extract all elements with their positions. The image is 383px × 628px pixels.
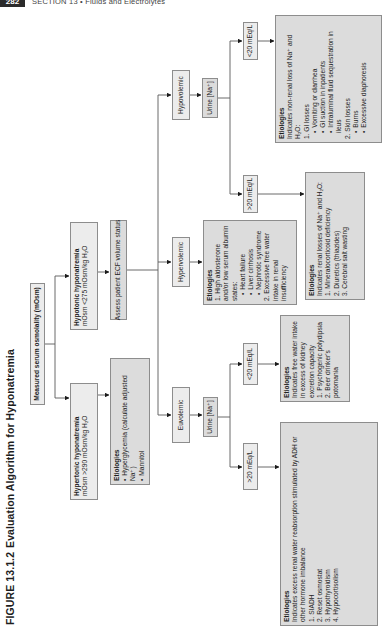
node-hypovolemic-urine-na: Urine [Na⁺] [202,78,218,118]
node-euvolemic-urine-high: >20 mEq/L [243,443,258,490]
etiology-item: 1. Psychogenic polydipsia [316,319,324,398]
etiology-item: 1. SIADH [308,426,316,622]
etiology-subitem: Excessive diaphoresis [360,19,368,139]
euvolemic-high-etiologies-box: Etiologies Indicates excess renal water … [280,422,378,626]
hypotonic-criterion: mOsm <275 mOsm/kg H₂O [81,246,88,326]
etiology-subitem: Liver cirrhosis [247,224,255,301]
etiology-subitem: Intraluminal fluid sequestration in ileu… [327,19,343,139]
hypervolemic-etiologies-box: Etiologies 1. High aldosterone and/or lo… [203,220,297,305]
node-hypovolemic: Hypovolemic [172,70,190,120]
node-assess-ecf-volume: Assess patient ECF volume status [110,220,127,320]
node-hypervolemic: Hypervolemic [172,237,190,287]
etiology-item: 3. Cerebral salt wasting [341,176,349,296]
node-hypovolemic-urine-low: <20 mEq/L [243,22,258,60]
etiology-subitem: Burns [352,19,360,139]
etiologies-heading: Etiologies [283,426,291,622]
etiology-subitem: Heart failure [239,224,247,301]
etiology-description: Indicates non-renal loss of Na⁺ and H₂O: [286,19,302,139]
hypovolemic-low-etiologies-box: Etiologies Indicates non-renal loss of N… [275,15,382,143]
hypertonic-criterion: mOsm >290 mOsm/kg H₂O [81,416,88,496]
etiology-item: 3. Hypothyroidism [324,426,332,622]
etiology-item: 2. Beer drinker's potomania [324,319,340,398]
node-hypotonic-hyponatremia: Hypotonic hyponatremia mOsm <275 mOsm/kg… [70,222,98,330]
node-euvolemic-urine-na: Urine [Na⁺] [203,397,218,437]
etiology-item: 1. Mineralocorticoid deficiency [324,176,332,296]
hypertonic-title: Hypertonic hyponatremia [73,387,81,496]
etiologies-heading: Etiologies [113,362,121,481]
etiologies-heading: Etiologies [283,319,291,398]
etiologies-heading: Etiologies [308,176,316,296]
node-hypertonic-hyponatremia: Hypertonic hyponatremia mOsm >290 mOsm/k… [70,383,98,500]
etiology-description: Indicates renal losses of Na⁺ and H₂O: [316,176,324,296]
hypotonic-title: Hypotonic hyponatremia [73,226,81,326]
etiology-item: 2. Diuretics (thiazides) [333,176,341,296]
node-euvolemic: Euvolemic [172,387,190,443]
hypertonic-etiologies-box: Etiologies Hyperglycemia (calculate adju… [110,358,150,485]
etiology-item: Mannitol [138,362,146,481]
etiology-subitem: GI suction in inpatients [319,19,327,139]
etiology-subitem: Vomiting or diarrhea [311,19,319,139]
etiologies-heading: Etiologies [278,19,286,139]
etiology-subitem: Nephrotic syndrome [255,224,263,301]
etiology-item: 1. High aldosterone and/or low serum alb… [214,224,239,301]
etiology-item: 2. Reset osmostat [316,426,324,622]
euvolemic-low-etiologies-box: Etiologies Indicates free water intake i… [280,315,350,402]
node-hypovolemic-urine-high: >20 mEq/L [243,175,258,213]
node-euvolemic-urine-low: <20 mEq/L [243,343,258,385]
etiology-description: Indicates free water intake in excess of… [291,319,316,398]
figure-hyponatremia-algorithm: FIGURE 13.1.2Evaluation Algorithm for Hy… [0,0,383,628]
etiology-description: Indicates excess renal water reabsorptio… [291,426,307,622]
etiology-group: 2. Skin losses [344,19,352,139]
etiologies-heading: Etiologies [206,224,214,301]
etiology-item: Hyperglycemia (calculate adjusted Na⁺) [121,362,137,481]
root-node-serum-osmolality: Measured serum osmolality (mOsm) [30,283,45,405]
etiology-item: 4. Hypocortisolism [332,426,340,622]
etiology-item: 2. Excessive free water intake in renal … [263,224,288,301]
etiology-group: 1. GI losses [303,19,311,139]
hypovolemic-high-etiologies-box: Etiologies Indicates renal losses of Na⁺… [305,172,365,300]
